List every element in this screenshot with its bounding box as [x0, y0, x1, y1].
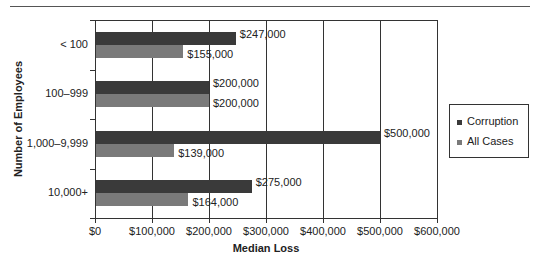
corruption-bar — [96, 131, 380, 144]
data-label: $139,000 — [178, 147, 224, 160]
x-tick-label: $100,000 — [129, 225, 175, 237]
corruption-bar — [96, 81, 209, 94]
all-cases-swatch-icon — [457, 140, 462, 145]
x-tick-label: $400,000 — [300, 225, 346, 237]
legend-item-all-cases: All Cases — [457, 135, 513, 147]
corruption-swatch-icon — [457, 120, 462, 125]
data-label: $247,000 — [240, 28, 286, 41]
y-axis-title: Number of Employees — [12, 61, 24, 177]
data-label: $155,000 — [187, 48, 233, 61]
x-axis — [90, 218, 438, 219]
gridline — [380, 20, 381, 218]
all-cases-bar — [96, 94, 209, 107]
legend: Corruption All Cases — [449, 104, 529, 158]
data-label: $200,000 — [213, 97, 259, 110]
category-label: < 100 — [60, 38, 88, 50]
legend-item-corruption: Corruption — [457, 115, 518, 127]
category-label: 1,000–9,999 — [27, 137, 88, 149]
all-cases-bar — [96, 144, 174, 157]
data-label: $275,000 — [256, 176, 302, 189]
data-label: $164,000 — [192, 196, 238, 209]
corruption-bar — [96, 180, 252, 193]
x-tick-label: $200,000 — [186, 225, 232, 237]
category-label: 10,000+ — [48, 186, 88, 198]
x-tick-label: $300,000 — [243, 225, 289, 237]
corruption-bar — [96, 32, 236, 45]
gridline — [323, 20, 324, 218]
x-axis-title: Median Loss — [233, 242, 300, 254]
data-label: $500,000 — [384, 127, 430, 140]
data-label: $200,000 — [213, 77, 259, 90]
x-tick-label: $600,000 — [414, 225, 460, 237]
gridline — [437, 20, 438, 218]
x-tick-label: $500,000 — [357, 225, 403, 237]
x-tick-label: $0 — [89, 225, 101, 237]
top-rule — [10, 6, 530, 7]
all-cases-bar — [96, 193, 188, 206]
all-cases-bar — [96, 45, 183, 58]
category-label: 100–999 — [45, 87, 88, 99]
